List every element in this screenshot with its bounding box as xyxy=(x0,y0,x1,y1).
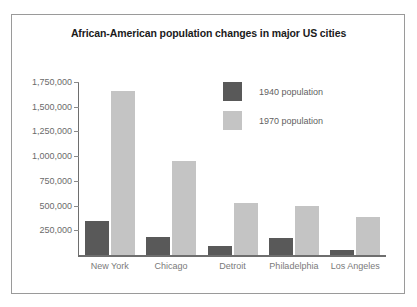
y-tick-label: 500,000 xyxy=(39,201,72,211)
bar xyxy=(111,91,135,255)
x-tick-label: Chicago xyxy=(155,261,188,271)
legend-label: 1940 population xyxy=(259,87,323,97)
chart-title: African-American population changes in m… xyxy=(0,27,417,39)
x-tick-label: Philadelphia xyxy=(269,261,318,271)
x-tick-label: Los Angeles xyxy=(331,261,380,271)
bar xyxy=(85,221,109,255)
bar xyxy=(295,206,319,255)
bar xyxy=(208,246,232,255)
y-tick-label: 250,000 xyxy=(39,225,72,235)
y-tick-label: 750,000 xyxy=(39,176,72,186)
y-tick-label: 1,250,000 xyxy=(32,126,72,136)
plot-area: 1,750,0001,500,0001,250,0001,000,000750,… xyxy=(79,82,386,255)
y-tick-label: 1,500,000 xyxy=(32,102,72,112)
y-tick-mark xyxy=(74,206,79,207)
bar xyxy=(234,203,258,255)
bar xyxy=(330,250,354,255)
legend-label: 1970 population xyxy=(259,116,323,126)
x-axis-line xyxy=(78,255,386,257)
y-tick-label: 1,000,000 xyxy=(32,151,72,161)
y-tick-mark xyxy=(74,181,79,182)
bar xyxy=(269,238,293,255)
y-tick-mark xyxy=(74,107,79,108)
bar xyxy=(146,237,170,255)
y-tick-mark xyxy=(74,156,79,157)
y-tick-mark xyxy=(74,131,79,132)
legend-item: 1970 population xyxy=(223,111,323,130)
x-tick-label: Detroit xyxy=(219,261,246,271)
chart-figure: African-American population changes in m… xyxy=(0,0,417,307)
x-tick-label: New York xyxy=(91,261,129,271)
legend-swatch xyxy=(223,82,242,101)
bar xyxy=(356,217,380,255)
y-tick-label: 1,750,000 xyxy=(32,77,72,87)
legend-swatch xyxy=(223,111,242,130)
legend-item: 1940 population xyxy=(223,82,323,101)
y-tick-mark xyxy=(74,82,79,83)
y-tick-mark xyxy=(74,230,79,231)
bar xyxy=(172,161,196,255)
